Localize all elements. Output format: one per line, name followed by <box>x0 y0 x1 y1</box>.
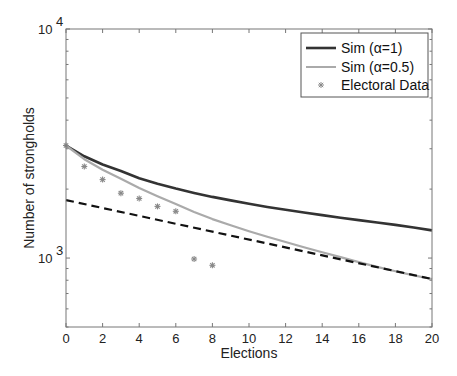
electoral-data-point <box>81 164 87 170</box>
asterisk-marker-icon <box>318 82 324 88</box>
x-tick-label: 12 <box>278 331 292 346</box>
x-tick-label: 20 <box>425 331 439 346</box>
x-tick-label: 14 <box>315 331 329 346</box>
x-tick-label: 10 <box>242 331 256 346</box>
electoral-data-point <box>155 203 161 209</box>
legend-label-sim-alpha-0-5: Sim (α=0.5) <box>341 59 414 75</box>
strongholds-chart: 02468101214161820 103104 Elections Numbe… <box>0 0 457 376</box>
electoral-data-point <box>118 190 124 196</box>
electoral-data-point <box>173 208 179 214</box>
y-tick-exponent: 3 <box>56 243 63 258</box>
x-tick-label: 8 <box>209 331 216 346</box>
x-axis-label: Elections <box>221 345 278 361</box>
y-tick-label: 10 <box>38 22 52 37</box>
electoral-data-point <box>100 177 106 183</box>
legend-label-electoral-data: Electoral Data <box>341 77 429 93</box>
x-tick-label: 6 <box>172 331 179 346</box>
y-tick-label: 10 <box>38 251 52 266</box>
y-tick-exponent: 4 <box>56 14 63 29</box>
x-tick-label: 2 <box>99 331 106 346</box>
electoral-data-point <box>136 196 142 202</box>
electoral-data-point <box>209 262 215 268</box>
x-tick-label: 4 <box>136 331 143 346</box>
x-tick-label: 0 <box>62 331 69 346</box>
y-axis-label: Number of strongholds <box>21 107 37 249</box>
x-tick-label: 16 <box>352 331 366 346</box>
x-tick-labels: 02468101214161820 <box>62 331 439 346</box>
legend-label-sim-alpha-1: Sim (α=1) <box>341 40 402 56</box>
electoral-data-point <box>191 256 197 262</box>
legend: Sim (α=1) Sim (α=0.5) Electoral Data <box>301 33 429 97</box>
y-tick-labels: 103104 <box>38 14 63 266</box>
x-tick-label: 18 <box>388 331 402 346</box>
